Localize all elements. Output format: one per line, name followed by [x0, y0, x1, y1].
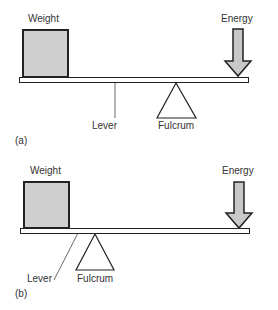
- lever-leader-line: [54, 233, 78, 280]
- fulcrum-label: Fulcrum: [158, 121, 194, 131]
- lever-diagram: [0, 0, 278, 310]
- energy-arrow: [225, 29, 251, 76]
- lever-label: Lever: [27, 274, 52, 284]
- weight-box: [23, 30, 68, 77]
- fulcrum-label: Fulcrum: [77, 274, 113, 284]
- panel-caption: (b): [15, 289, 27, 299]
- energy-label: Energy: [221, 14, 253, 24]
- weight-box: [24, 182, 69, 228]
- weight-label: Weight: [30, 166, 61, 176]
- lever-bar: [20, 78, 249, 83]
- fulcrum-triangle: [157, 83, 196, 118]
- panel-b: [21, 182, 253, 280]
- energy-label: Energy: [222, 166, 254, 176]
- energy-arrow: [226, 182, 252, 228]
- lever-bar: [21, 229, 250, 234]
- panel-caption: (a): [15, 136, 27, 146]
- fulcrum-triangle: [76, 234, 114, 270]
- panel-a: [20, 29, 252, 118]
- lever-label: Lever: [92, 121, 117, 131]
- weight-label: Weight: [28, 14, 59, 24]
